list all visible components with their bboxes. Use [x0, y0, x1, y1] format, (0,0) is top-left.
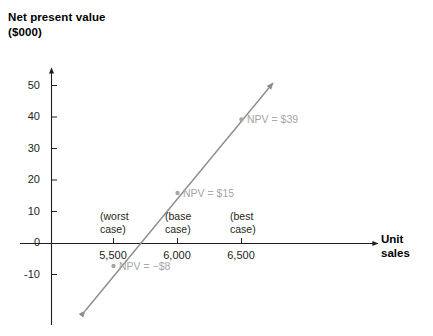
x-axis-title: Unit sales [381, 232, 410, 260]
scenario-label-worst-case: (worst case) [100, 210, 129, 235]
point-label-best-case: NPV = $39 [247, 113, 298, 125]
y-tick-label-20: 20 [12, 173, 40, 185]
data-point-worst-case [111, 264, 115, 268]
y-tick-label-30: 30 [12, 142, 40, 154]
plot-area [0, 0, 433, 336]
y-tick-label-50: 50 [12, 79, 40, 91]
data-point-base-case [175, 191, 179, 195]
scenario-label-best-case: (best case) [230, 210, 256, 235]
npv-trend-line [85, 83, 273, 311]
x-axis [20, 238, 378, 244]
point-label-base-case: NPV = $15 [183, 187, 234, 199]
y-tick-label-40: 40 [12, 110, 40, 122]
y-tick-label-minus-10: -10 [12, 268, 40, 280]
data-point-best-case [239, 117, 243, 121]
npv-sensitivity-chart: Net present value ($000) [0, 0, 433, 336]
point-label-worst-case: NPV = −$8 [119, 260, 170, 272]
y-tick-label-0: 0 [12, 236, 40, 248]
x-tick-label-6500: 6,500 [217, 249, 265, 261]
y-tick-label-10: 10 [12, 205, 40, 217]
y-axis [52, 68, 58, 325]
scenario-label-base-case: (base case) [165, 210, 191, 235]
